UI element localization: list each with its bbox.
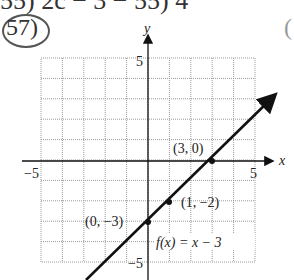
point-0-neg3 [145,219,151,225]
y-axis-label: y [142,21,151,36]
point-label-1-neg2: (1, −2) [181,195,220,211]
point-3-0 [209,158,215,164]
function-line [86,96,274,280]
x-tick-neg5: −5 [24,166,39,181]
y-tick-5: 5 [136,54,143,69]
y-tick-neg5: −5 [128,256,143,271]
point-label-0-neg3: (0, −3) [85,214,124,230]
point-1-neg2 [166,199,172,205]
function-label: f(x) = x − 3 [156,235,222,251]
x-axis-label: x [278,153,286,168]
x-tick-5: 5 [250,166,257,181]
graph: x y −5 5 5 −5 (3, 0) (1, −2) (0, −3) f(x… [0,0,294,280]
point-label-3-0: (3, 0) [173,141,204,157]
